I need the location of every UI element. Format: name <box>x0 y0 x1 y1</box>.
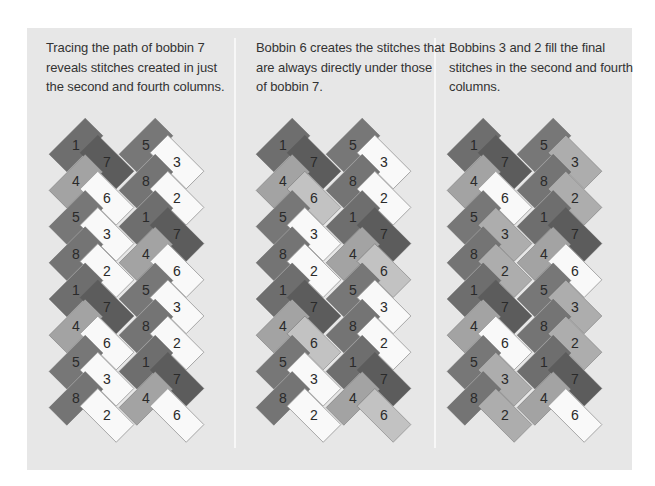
bobbin-number-label: 6 <box>173 407 181 423</box>
bobbin-number-label: 5 <box>279 354 287 370</box>
bobbin-number-label: 7 <box>310 154 318 170</box>
bobbin-number-label: 3 <box>380 299 388 315</box>
bobbin-number-label: 7 <box>173 226 181 242</box>
bobbin-number-label: 1 <box>470 282 478 298</box>
bobbin-number-label: 1 <box>540 209 548 225</box>
bobbin-number-label: 1 <box>540 354 548 370</box>
bobbin-number-label: 1 <box>349 209 357 225</box>
bobbin-number-label: 3 <box>310 226 318 242</box>
bobbin-number-label: 5 <box>142 282 150 298</box>
bobbin-number-label: 4 <box>349 390 357 406</box>
bobbin-number-label: 4 <box>279 318 287 334</box>
bobbin-number-label: 3 <box>571 299 579 315</box>
bobbin-number-label: 7 <box>103 299 111 315</box>
bobbin-number-label: 1 <box>72 137 80 153</box>
bobbin-number-label: 1 <box>279 137 287 153</box>
bobbin-number-label: 2 <box>380 190 388 206</box>
bobbin-number-label: 5 <box>470 209 478 225</box>
bobbin-number-label: 1 <box>349 354 357 370</box>
bobbin-number-label: 8 <box>279 390 287 406</box>
bobbin-number-label: 2 <box>571 335 579 351</box>
bobbin-number-label: 8 <box>72 246 80 262</box>
bobbin-number-label: 4 <box>142 390 150 406</box>
bobbin-number-label: 2 <box>173 335 181 351</box>
bobbin-number-label: 8 <box>470 390 478 406</box>
bobbin-number-label: 5 <box>279 209 287 225</box>
bobbin-number-label: 6 <box>310 335 318 351</box>
bobbin-number-label: 1 <box>279 282 287 298</box>
bobbin-number-label: 3 <box>103 226 111 242</box>
bobbin-number-label: 3 <box>501 226 509 242</box>
bobbin-number-label: 3 <box>310 371 318 387</box>
bobbin-number-label: 2 <box>380 335 388 351</box>
bobbin-number-label: 3 <box>173 299 181 315</box>
bobbin-number-label: 5 <box>540 137 548 153</box>
bobbin-number-label: 7 <box>501 154 509 170</box>
bobbin-number-label: 6 <box>103 190 111 206</box>
bobbin-number-label: 7 <box>571 226 579 242</box>
bobbin-number-label: 2 <box>103 263 111 279</box>
bobbin-number-label: 8 <box>349 318 357 334</box>
braid-diagrams: 15734862513784261573486251378426 1573486… <box>0 0 655 486</box>
bobbin-number-label: 5 <box>142 137 150 153</box>
bobbin-number-label: 8 <box>540 173 548 189</box>
bobbin-number-label: 7 <box>380 371 388 387</box>
bobbin-number-label: 2 <box>103 407 111 423</box>
bobbin-number-label: 8 <box>349 173 357 189</box>
bobbin-number-label: 3 <box>103 371 111 387</box>
bobbin-number-label: 2 <box>571 190 579 206</box>
bobbin-number-label: 2 <box>501 407 509 423</box>
bobbin-number-label: 2 <box>310 407 318 423</box>
bobbin-number-label: 6 <box>501 190 509 206</box>
bobbin-number-label: 5 <box>72 209 80 225</box>
bobbin-number-label: 8 <box>72 390 80 406</box>
bobbin-number-label: 1 <box>142 354 150 370</box>
bobbin-number-label: 6 <box>380 407 388 423</box>
bobbin-number-label: 5 <box>540 282 548 298</box>
bobbin-number-label: 7 <box>501 299 509 315</box>
bobbin-number-label: 4 <box>470 318 478 334</box>
bobbin-number-label: 4 <box>72 173 80 189</box>
braid-panel-3: 15734862513784261573486251378426 <box>447 118 602 442</box>
bobbin-number-label: 7 <box>173 371 181 387</box>
bobbin-number-label: 6 <box>571 263 579 279</box>
bobbin-number-label: 2 <box>501 263 509 279</box>
bobbin-number-label: 5 <box>72 354 80 370</box>
bobbin-number-label: 3 <box>571 154 579 170</box>
bobbin-number-label: 8 <box>142 173 150 189</box>
bobbin-number-label: 7 <box>571 371 579 387</box>
bobbin-number-label: 4 <box>142 246 150 262</box>
bobbin-number-label: 6 <box>310 190 318 206</box>
bobbin-number-label: 7 <box>103 154 111 170</box>
bobbin-number-label: 8 <box>470 246 478 262</box>
bobbin-number-label: 3 <box>501 371 509 387</box>
bobbin-number-label: 7 <box>380 226 388 242</box>
bobbin-number-label: 6 <box>173 263 181 279</box>
bobbin-number-label: 6 <box>501 335 509 351</box>
bobbin-number-label: 6 <box>380 263 388 279</box>
bobbin-number-label: 5 <box>349 137 357 153</box>
bobbin-number-label: 1 <box>470 137 478 153</box>
bobbin-number-label: 4 <box>349 246 357 262</box>
bobbin-number-label: 8 <box>142 318 150 334</box>
bobbin-number-label: 4 <box>540 246 548 262</box>
bobbin-number-label: 3 <box>380 154 388 170</box>
bobbin-number-label: 5 <box>349 282 357 298</box>
bobbin-number-label: 1 <box>72 282 80 298</box>
bobbin-number-label: 1 <box>142 209 150 225</box>
bobbin-number-label: 6 <box>103 335 111 351</box>
bobbin-number-label: 8 <box>279 246 287 262</box>
bobbin-number-label: 3 <box>173 154 181 170</box>
bobbin-number-label: 4 <box>72 318 80 334</box>
bobbin-number-label: 6 <box>571 407 579 423</box>
bobbin-number-label: 8 <box>540 318 548 334</box>
bobbin-number-label: 4 <box>279 173 287 189</box>
bobbin-number-label: 5 <box>470 354 478 370</box>
bobbin-number-label: 4 <box>470 173 478 189</box>
braid-panel-2: 15734862513784261573486251378426 <box>256 118 411 442</box>
bobbin-number-label: 7 <box>310 299 318 315</box>
bobbin-number-label: 2 <box>310 263 318 279</box>
bobbin-number-label: 4 <box>540 390 548 406</box>
bobbin-number-label: 2 <box>173 190 181 206</box>
braid-panel-1: 15734862513784261573486251378426 <box>49 118 204 442</box>
